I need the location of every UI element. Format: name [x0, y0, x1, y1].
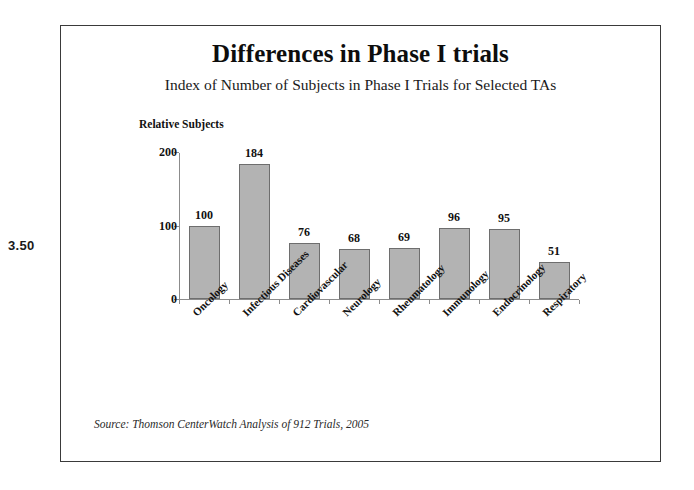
x-axis-tick [479, 300, 480, 304]
x-axis-tick [579, 300, 580, 304]
margin-page-number: 3.50 [8, 238, 35, 253]
x-axis-tick [279, 300, 280, 304]
bar-value-label: 100 [179, 208, 229, 223]
bar-value-label: 51 [529, 244, 579, 259]
source-note: Source: Thomson CenterWatch Analysis of … [94, 418, 369, 430]
bar-value-label: 69 [379, 230, 429, 245]
x-axis-tick [429, 300, 430, 304]
chart-title: Differences in Phase I trials [61, 40, 660, 68]
x-axis-tick [329, 300, 330, 304]
bar-value-label: 68 [329, 231, 379, 246]
x-axis-tick [229, 300, 230, 304]
slide-frame: Differences in Phase I trials Index of N… [60, 25, 661, 462]
y-axis-line [179, 153, 180, 300]
x-axis-tick [179, 300, 180, 304]
bar-value-label: 184 [229, 146, 279, 161]
y-axis-tick-label: 200 [137, 145, 177, 160]
y-axis-tick-label: 100 [137, 219, 177, 234]
y-axis-title: Relative Subjects [139, 118, 224, 130]
x-axis-tick [529, 300, 530, 304]
x-axis-tick [379, 300, 380, 304]
bar-value-label: 76 [279, 225, 329, 240]
plot-area: 0100200 100184766869969551 [179, 148, 579, 300]
bar-value-label: 96 [429, 210, 479, 225]
bar [239, 164, 270, 299]
bar-value-label: 95 [479, 211, 529, 226]
chart-subtitle: Index of Number of Subjects in Phase I T… [61, 76, 660, 94]
y-axis-tick-label: 0 [137, 292, 177, 307]
